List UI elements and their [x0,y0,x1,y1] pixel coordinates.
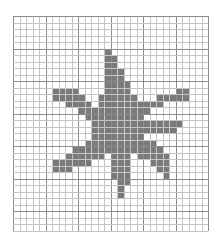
minor-grid-line [13,205,208,206]
minor-grid-line [13,107,208,108]
major-grid-line [13,211,208,212]
major-grid-line [13,16,208,17]
minor-grid-line [13,88,208,89]
minor-grid-line [13,166,208,167]
graph-paper-grid [13,16,208,231]
minor-grid-line [13,23,208,24]
minor-grid-line [13,101,208,102]
major-grid-line [13,49,208,50]
minor-grid-line [13,172,208,173]
minor-grid-line [13,224,208,225]
minor-grid-line [13,36,208,37]
minor-grid-line [13,42,208,43]
minor-grid-line [13,192,208,193]
minor-grid-line [13,68,208,69]
minor-grid-line [13,29,208,30]
minor-grid-line [13,62,208,63]
major-grid-line [13,179,208,180]
minor-grid-line [13,120,208,121]
minor-grid-line [13,218,208,219]
minor-grid-line [13,185,208,186]
major-grid-line [13,146,208,147]
minor-grid-line [13,198,208,199]
minor-grid-line [13,55,208,56]
major-grid-line [13,81,208,82]
minor-grid-line [13,75,208,76]
minor-grid-line [13,133,208,134]
minor-grid-line [13,94,208,95]
major-grid-line [13,114,208,115]
minor-grid-line [13,153,208,154]
minor-grid-line [13,159,208,160]
minor-grid-line [13,127,208,128]
major-grid-line [208,16,209,231]
minor-grid-line [13,231,208,232]
minor-grid-line [13,140,208,141]
